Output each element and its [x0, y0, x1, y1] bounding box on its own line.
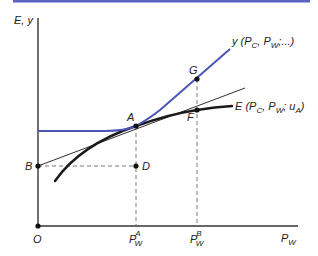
expenditure-function-diagram: E, y O PW PAW PBW A B D F G y (PC, PW;..… [0, 0, 318, 256]
y-axis-label: E, y [14, 14, 34, 26]
label-d: D [142, 160, 150, 172]
e-curve-label: E (PC, PW; uA) [235, 100, 305, 115]
label-g: G [189, 64, 198, 76]
x-axis-label: PW [281, 232, 297, 247]
label-b: B [25, 160, 32, 172]
tangent-line [38, 88, 245, 166]
top-rule [13, 0, 310, 3]
point-f [194, 107, 199, 112]
point-a [133, 123, 138, 128]
point-o [35, 223, 40, 228]
origin-label: O [33, 233, 42, 245]
label-a: A [126, 111, 134, 123]
tick-pwa: PAW [129, 229, 144, 248]
label-f: F [187, 111, 195, 123]
tick-pwb: PBW [190, 229, 205, 248]
point-b [35, 163, 40, 168]
y-curve-label: y (PC, PW;...) [231, 35, 295, 50]
point-d [133, 163, 138, 168]
point-g [194, 76, 199, 81]
